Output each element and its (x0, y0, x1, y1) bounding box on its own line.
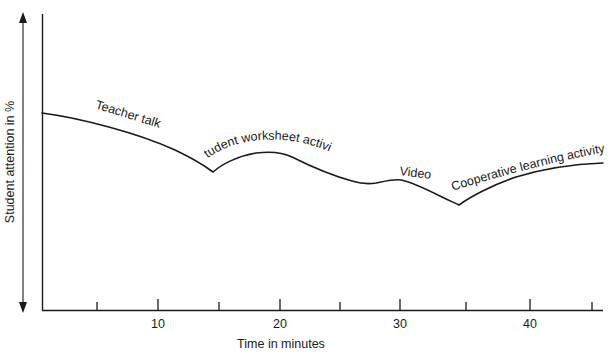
y-axis-direction-arrow (19, 12, 27, 313)
curve-label-student-worksheet-activity-text: Student worksheet activity (0, 0, 334, 161)
curve-label-video: Video (399, 164, 432, 182)
x-tick-label-10: 10 (151, 317, 165, 331)
svg-text:Cooperative learning activity: Cooperative learning activity (450, 141, 607, 193)
x-axis-ticks (97, 299, 592, 311)
x-tick-label-40: 40 (523, 317, 537, 331)
x-axis-label: Time in minutes (237, 337, 325, 351)
curve-label-cooperative-learning-activity-text: Cooperative learning activity (450, 141, 607, 193)
svg-text:Student worksheet activity: Student worksheet activity (0, 0, 334, 161)
chart-figure: Student attention in % 10 20 30 40 Time … (0, 0, 615, 356)
curve-label-cooperative-learning-activity: Cooperative learning activity (450, 141, 607, 193)
attention-curve-chart: Student attention in % 10 20 30 40 Time … (0, 0, 615, 356)
y-axis-label: Student attention in % (3, 101, 17, 223)
curve-label-student-worksheet-activity: Student worksheet activity (0, 0, 334, 161)
x-tick-label-20: 20 (273, 317, 287, 331)
attention-curve (42, 113, 603, 205)
x-tick-label-30: 30 (393, 317, 407, 331)
